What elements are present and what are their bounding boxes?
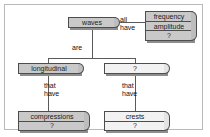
edge-label-that-have-left: that have [44,82,59,98]
edge-label-all-have-line2: have [120,24,135,32]
edge-label-all-have-line1: all [120,16,135,24]
node-longitudinal[interactable]: longitudinal [18,63,80,74]
node-crests-row-blank[interactable]: ? [105,121,165,131]
node-properties-row-frequency: frequency [146,12,192,21]
node-waves-label: waves [69,18,115,27]
node-compressions-row-blank[interactable]: ? [19,121,85,131]
node-properties[interactable]: frequency amplitude ? [145,11,193,41]
node-cap-icon [164,111,170,131]
node-transverse-label[interactable]: ? [105,64,165,73]
edge-label-that-have-left-line1: that [44,82,59,90]
connector-branch-bar [48,58,135,59]
node-properties-row-blank[interactable]: ? [146,30,192,40]
node-waves[interactable]: waves [68,17,116,28]
edge-label-are: are [72,44,82,52]
edge-label-all-have: all have [120,16,135,32]
node-compressions-label: compressions [19,112,85,121]
node-crests[interactable]: crests ? [104,111,166,131]
node-longitudinal-label: longitudinal [19,64,79,73]
node-crests-label: crests [105,112,165,121]
node-transverse[interactable]: ? [104,63,166,74]
node-compressions[interactable]: compressions ? [18,111,86,131]
edge-label-that-have-left-line2: have [44,90,59,98]
diagram-canvas: waves frequency amplitude ? longitudinal… [0,0,210,137]
connector-waves-stem [92,28,93,58]
node-properties-row-amplitude: amplitude [146,21,192,31]
node-cap-icon [191,11,197,41]
edge-label-that-have-right: that have [122,82,137,98]
edge-label-that-have-right-line1: that [122,82,137,90]
edge-label-that-have-right-line2: have [122,90,137,98]
node-cap-icon [84,111,90,131]
